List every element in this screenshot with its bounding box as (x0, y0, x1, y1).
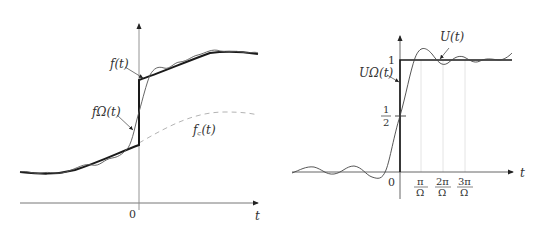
label-f-omega: fΩ(t) (91, 105, 121, 119)
label-u: U(t) (440, 30, 465, 44)
right-x-axis-label: t (520, 166, 525, 180)
right-origin-label: 0 (388, 176, 395, 189)
label-u-omega: UΩ(t) (359, 66, 394, 80)
tick-pi-num: π (417, 176, 424, 187)
tick-3pi-den: Ω (460, 187, 468, 198)
tick-3pi: 3π Ω (457, 176, 473, 198)
tick-half-den: 2 (383, 117, 389, 128)
label-fc: f꜀(t) (192, 123, 216, 137)
tick-2pi-num: 2π (436, 176, 449, 187)
tick-3pi-num: 3π (458, 176, 471, 187)
figure-canvas: f(t) fΩ(t) f꜀(t) 0 t U(t) UΩ(t) 1 1 2 0 … (0, 0, 542, 231)
label-f: f(t) (109, 57, 129, 71)
tick-pi-den: Ω (416, 187, 424, 198)
tick-2pi-den: Ω (438, 187, 446, 198)
tick-2pi: 2π Ω (435, 176, 451, 198)
u-leader (440, 48, 449, 59)
left-x-axis-label: t (255, 209, 260, 223)
u-omega-curve (292, 48, 512, 178)
left-figure: f(t) fΩ(t) f꜀(t) 0 t (20, 24, 260, 223)
tick-one: 1 (388, 54, 395, 67)
tick-half-num: 1 (383, 104, 389, 115)
tick-pi: π Ω (414, 176, 428, 198)
right-figure: U(t) UΩ(t) 1 1 2 0 t π Ω 2π Ω 3π Ω (292, 30, 525, 199)
u-step (400, 60, 512, 172)
left-origin-label: 0 (129, 208, 136, 221)
